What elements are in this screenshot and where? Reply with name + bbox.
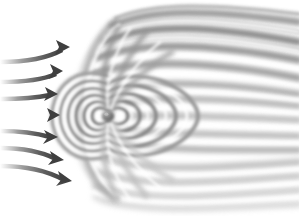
- magnetosphere-figure: Magnetosphere and solar wind Grayscale r…: [0, 0, 299, 216]
- planet-dipole-core: [102, 110, 115, 121]
- magnetosphere-canvas: Magnetosphere and solar wind Grayscale r…: [0, 0, 299, 216]
